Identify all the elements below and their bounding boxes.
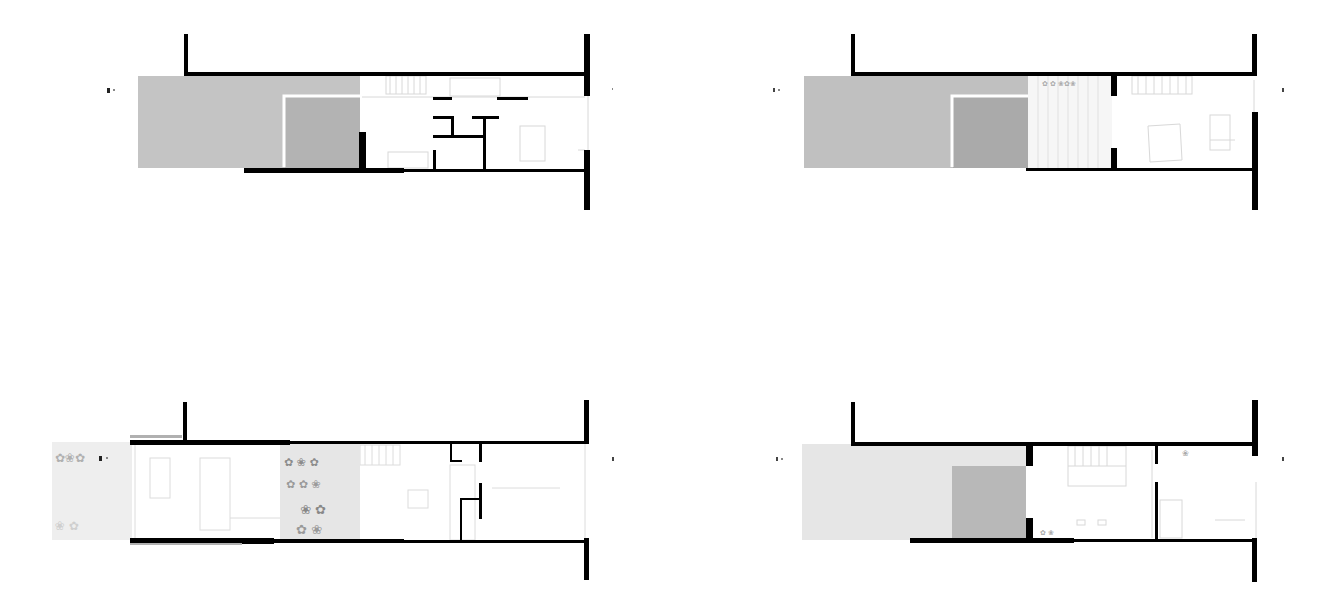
svg-text:❀: ❀ [1182, 449, 1189, 458]
section-marker-right [612, 88, 613, 90]
section-marker-left [107, 88, 115, 93]
garden-strip: ✿❀✿ ❀ ✿ [52, 442, 132, 540]
svg-text:✿❀✿: ✿❀✿ [55, 451, 85, 465]
section-marker-left [776, 457, 783, 461]
svg-text:✿ ✿ ❀✿❀: ✿ ✿ ❀✿❀ [1042, 80, 1076, 87]
section-marker-left [773, 88, 780, 92]
floor-plan-top-right: ✿ ✿ ❀✿❀ [670, 0, 1340, 300]
raised-planter [953, 97, 1028, 168]
section-marker-right [612, 457, 614, 461]
planted-patio: ✿ ❀ ✿ ✿ ✿ ❀ ❀ ✿ ✿ ❀ [280, 444, 360, 540]
section-marker-right [1282, 457, 1284, 461]
svg-text:✿ ❀: ✿ ❀ [296, 522, 322, 537]
furniture-lines [1132, 76, 1254, 162]
svg-text:✿ ✿ ❀: ✿ ✿ ❀ [286, 478, 321, 491]
planted-zone: ✿ ✿ ❀✿❀ [1028, 76, 1112, 168]
svg-text:✿ ❀: ✿ ❀ [1040, 529, 1054, 537]
furniture-lines [1068, 446, 1256, 538]
svg-text:❀ ✿: ❀ ✿ [300, 502, 326, 517]
raised-planter [952, 466, 1026, 540]
svg-text:✿ ❀ ✿: ✿ ❀ ✿ [284, 456, 319, 469]
furniture-lines [362, 76, 588, 168]
raised-planter [285, 97, 360, 168]
floor-plan-bottom-left: ✿❀✿ ❀ ✿ ✿ ❀ ✿ ✿ ✿ ❀ ❀ ✿ ✿ ❀ [0, 370, 670, 615]
floor-plan-bottom-right: ❀ ✿ ❀ [670, 370, 1340, 615]
svg-text:❀ ✿: ❀ ✿ [55, 519, 79, 533]
floor-plan-top-left [0, 0, 670, 300]
section-marker-right [1282, 88, 1284, 92]
